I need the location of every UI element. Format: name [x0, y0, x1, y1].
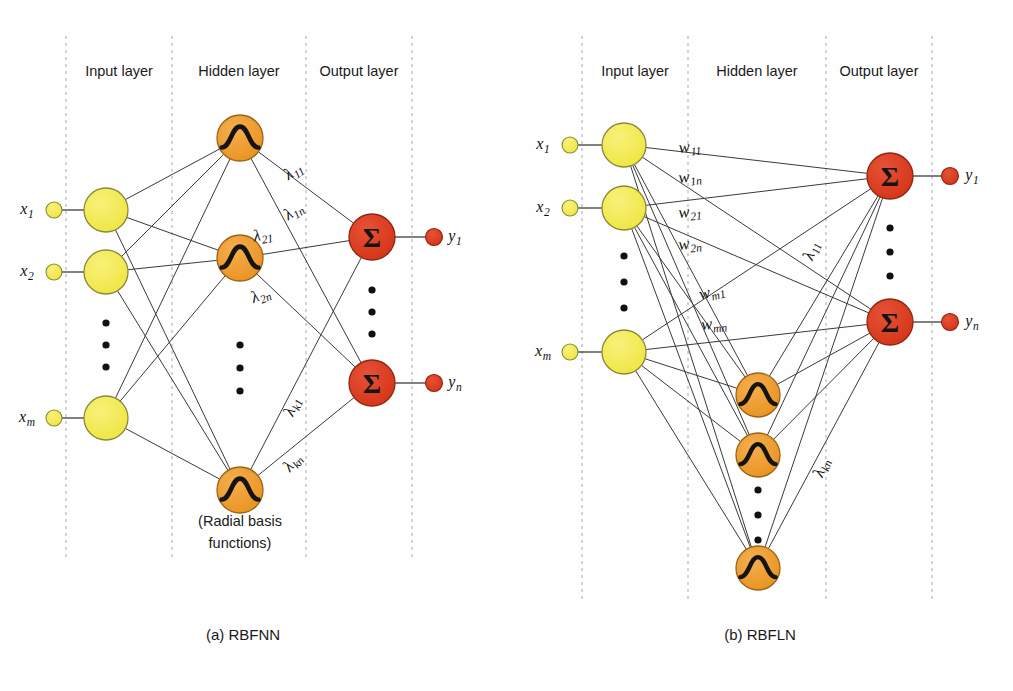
edge-input-hidden	[634, 164, 747, 375]
hidden-ellipsis-dot	[754, 536, 761, 543]
edge-input-hidden	[127, 217, 219, 250]
weight-label-text: y1	[963, 166, 978, 185]
layer-label-1: Hidden layer	[716, 63, 798, 79]
weight-subscript: 1n	[291, 204, 307, 221]
weight-label-text: x2	[19, 262, 34, 281]
weight-label-text: w1n	[677, 166, 702, 189]
input-node-1[interactable]	[602, 123, 646, 167]
weight-label-λ-kn: λkn	[278, 449, 306, 477]
input-stub-node-1	[562, 137, 578, 153]
weight-subscript: 21	[690, 209, 703, 222]
weight-label-λ-11: λ11	[798, 239, 824, 264]
weight-subscript: 1	[456, 234, 462, 246]
panel-caption-rbfnn: (a) RBFNN	[206, 626, 280, 643]
edge-hidden-output	[769, 196, 878, 376]
weight-label-text: λ11	[798, 239, 824, 264]
weight-label-λ-11: λ11	[279, 158, 306, 186]
weight-label-text: x2	[535, 198, 550, 217]
weight-subscript: kn	[290, 454, 306, 470]
input-stub-node-3	[46, 410, 62, 426]
edge-input-output-direct	[642, 157, 871, 309]
weight-subscript: 1	[973, 173, 979, 185]
input-node-3[interactable]	[602, 330, 646, 374]
weight-subscript: 11	[809, 241, 824, 255]
weight-label-λ-1n: λ1n	[279, 197, 307, 225]
weight-subscript: 1	[544, 142, 550, 154]
input-node-1[interactable]	[84, 188, 128, 232]
weight-label-text: λ1n	[279, 197, 307, 225]
hidden-node-1[interactable]	[217, 115, 263, 161]
hidden-node-3[interactable]	[736, 546, 780, 590]
weight-label-text: wm1	[697, 279, 727, 305]
weight-label-text: λ11	[279, 158, 306, 186]
input-variable-label-3: xm	[534, 342, 551, 361]
weight-label-text: x1	[535, 135, 549, 154]
layer-label-0: Input layer	[85, 63, 153, 79]
weight-label-λ-21: λ21	[251, 223, 274, 247]
weight-label-text: λ21	[251, 223, 274, 247]
output-variable-label-1: y1	[446, 227, 461, 246]
edge-hidden-output	[773, 338, 873, 439]
sigma-glyph: Σ	[363, 222, 381, 253]
weight-subscript: 2n	[690, 241, 703, 254]
nodes-layer: ΣΣΣΣ	[46, 115, 959, 590]
hidden-ellipsis-dot	[754, 486, 761, 493]
edge-input-hidden	[120, 276, 225, 402]
weight-label-text: w21	[677, 201, 702, 224]
sigma-glyph: Σ	[881, 161, 899, 192]
weight-label-text: λk1	[279, 394, 305, 420]
hidden-node-3[interactable]	[217, 467, 263, 513]
output-ellipsis-dot	[886, 224, 893, 231]
edge-input-hidden	[634, 227, 747, 435]
weight-label-text: xm	[534, 342, 551, 361]
weight-subscript: 1n	[690, 174, 703, 187]
input-node-2[interactable]	[602, 186, 646, 230]
weight-subscript: m1	[710, 287, 727, 302]
layer-label-2: Output layer	[320, 63, 399, 79]
panel-caption-rbfln: (b) RBFLN	[724, 626, 796, 643]
weight-label-text: λkn	[278, 449, 306, 477]
weight-label-text: x1	[19, 200, 33, 219]
weight-subscript: m	[543, 349, 551, 361]
weight-label-text: xm	[18, 408, 35, 427]
weight-label-text: λkn	[808, 455, 834, 481]
hidden-node-2[interactable]	[736, 433, 780, 477]
hidden-ellipsis-dot	[754, 511, 761, 518]
weight-label-text: yn	[963, 312, 979, 331]
output-stub-node-2	[942, 314, 959, 331]
edge-input-hidden	[115, 159, 230, 398]
weight-label-w-m1: wm1	[697, 279, 727, 305]
radial-basis-note-line1: (Radial basis	[198, 513, 282, 529]
weight-subscript: 21	[261, 232, 274, 246]
input-node-3[interactable]	[84, 396, 128, 440]
weight-label-λ-kn: λkn	[808, 455, 834, 481]
weight-subscript: mn	[712, 321, 727, 334]
sigma-glyph: Σ	[363, 368, 381, 399]
weight-subscript: k1	[290, 397, 305, 412]
hidden-ellipsis-dot	[236, 364, 243, 371]
output-stub-node-1	[426, 229, 443, 246]
input-ellipsis-dot	[620, 278, 627, 285]
output-ellipsis-dot	[886, 248, 893, 255]
input-ellipsis-dot	[102, 319, 109, 326]
output-ellipsis-dot	[368, 330, 375, 337]
input-ellipsis-dot	[102, 341, 109, 348]
weight-subscript: 2	[544, 205, 550, 217]
input-ellipsis-dot	[620, 252, 627, 259]
input-node-2[interactable]	[84, 250, 128, 294]
weight-label-w-1n: w1n	[677, 166, 702, 189]
hidden-node-1[interactable]	[736, 373, 780, 417]
weight-label-w-mn: wmn	[700, 312, 728, 335]
output-ellipsis-dot	[886, 272, 893, 279]
output-variable-label-1: y1	[963, 166, 978, 185]
input-stub-node-3	[562, 344, 578, 360]
weight-subscript: n	[973, 319, 979, 331]
input-ellipsis-dot	[620, 304, 627, 311]
edge-input-hidden	[632, 229, 751, 548]
weight-label-text: wmn	[700, 312, 728, 335]
input-stub-node-2	[562, 200, 578, 216]
layer-label-0: Input layer	[601, 63, 669, 79]
sigma-glyph: Σ	[881, 307, 899, 338]
hidden-ellipsis-dot	[236, 387, 243, 394]
network-diagram-svg: ΣΣΣΣ x1x2xmy1ynλ11λ1nλ21λ2nλk1λknInput l…	[0, 0, 1013, 691]
